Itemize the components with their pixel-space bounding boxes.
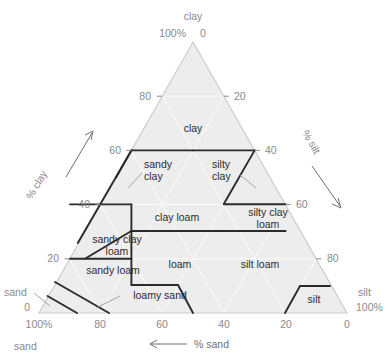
- apex-name-label: clay: [184, 10, 203, 22]
- silt-axis-arrow: [312, 166, 341, 208]
- apex-value-0: 0: [200, 27, 206, 39]
- bottom-axis-arrow: [150, 340, 187, 348]
- region-label-clay-loam: clay loam: [155, 211, 200, 223]
- left-tick-20: 20: [47, 252, 59, 264]
- right-tick-60: 60: [296, 198, 308, 210]
- region-label-clay: clay: [184, 122, 203, 134]
- region-label-silt: silt: [308, 293, 321, 305]
- clay-axis-arrow: [66, 131, 93, 177]
- right-tick-20: 20: [234, 90, 246, 102]
- apex-value-100: 100%: [159, 27, 186, 39]
- bottom-tick-80: 80: [94, 318, 106, 330]
- right-corner-name: silt: [358, 286, 371, 298]
- region-label-sandy-loam: sandy loam: [86, 264, 140, 276]
- left-tick-80: 80: [139, 90, 151, 102]
- bottom-axis-name: % sand: [194, 338, 229, 350]
- left-axis-name: sand: [14, 340, 37, 352]
- bottom-tick-100: 100%: [26, 318, 53, 330]
- right-corner-100: 100%: [356, 301, 383, 313]
- right-tick-40: 40: [265, 144, 277, 156]
- left-corner-name: sand: [4, 286, 27, 298]
- right-tick-80: 80: [327, 252, 339, 264]
- region-label-loamy-sand: loamy sand: [133, 289, 187, 301]
- bottom-tick-20: 20: [280, 318, 292, 330]
- left-tick-60: 60: [109, 144, 121, 156]
- bottom-tick-60: 60: [156, 318, 168, 330]
- region-label-silty-clay-1: silty: [212, 158, 231, 170]
- soil-texture-triangle-chart: clay 100% 0 sand 0 100% sand silt 100% 0…: [0, 0, 388, 354]
- region-label-loam: loam: [169, 258, 192, 270]
- ternary-diagram-svg: clay 100% 0 sand 0 100% sand silt 100% 0…: [0, 0, 388, 354]
- region-label-silty-clay-loam-2: loam: [257, 218, 280, 230]
- right-axis-percent-silt: % silt: [300, 128, 323, 156]
- region-label-silty-clay-loam-1: silty clay: [248, 206, 288, 218]
- left-corner-zero: 0: [24, 301, 30, 313]
- region-label-silt-loam: silt loam: [241, 258, 280, 270]
- region-label-silty-clay-2: clay: [212, 170, 231, 182]
- region-label-sandy-clay-2: clay: [144, 170, 163, 182]
- bottom-tick-0: 0: [344, 318, 350, 330]
- bottom-tick-40: 40: [218, 318, 230, 330]
- region-label-sandy-clay-loam-2: loam: [106, 245, 129, 257]
- left-axis-percent-clay: % clay: [23, 168, 49, 201]
- region-label-sandy-clay-loam-1: sandy clay: [92, 233, 142, 245]
- region-label-sandy-clay-1: sandy: [144, 158, 173, 170]
- left-tick-40: 40: [78, 198, 90, 210]
